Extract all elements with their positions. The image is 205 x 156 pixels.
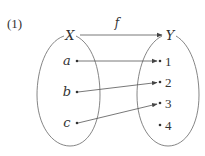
- codomain-element-1: 1: [165, 54, 172, 69]
- mapping-arrow-c-3: [78, 104, 157, 123]
- codomain-element-3: 3: [165, 96, 172, 111]
- domain-element-c: c: [63, 115, 71, 130]
- function-mapping-diagram: (1) X Y f a b c 1 2 3 4: [0, 0, 205, 156]
- codomain-element-2: 2: [165, 75, 172, 90]
- domain-point-a: [76, 60, 79, 63]
- codomain-point-3: [159, 102, 162, 105]
- codomain-point-4: [159, 124, 162, 127]
- problem-label: (1): [7, 16, 22, 31]
- codomain-element-4: 4: [165, 118, 172, 133]
- mapping-arrow-b-2: [78, 83, 157, 93]
- domain-set-label: X: [64, 28, 75, 43]
- codomain-point-1: [159, 60, 162, 63]
- domain-point-b: [76, 91, 79, 94]
- domain-point-c: [76, 122, 79, 125]
- codomain-point-2: [159, 81, 162, 84]
- domain-element-b: b: [63, 84, 71, 99]
- function-label: f: [114, 16, 122, 30]
- codomain-set-label: Y: [166, 28, 176, 43]
- domain-element-a: a: [63, 53, 71, 68]
